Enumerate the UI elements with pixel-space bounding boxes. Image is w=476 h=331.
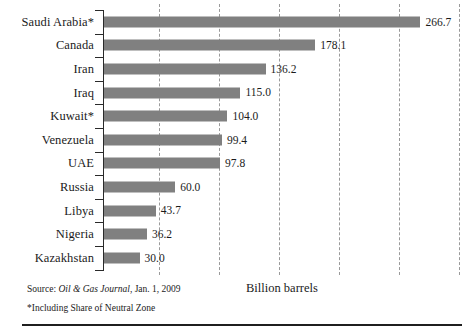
bar-row: Russia60.0 — [0, 175, 476, 199]
bar-container: 36.2 — [104, 229, 172, 240]
source-line: Source: Oil & Gas Journal, Jan. 1, 2009 — [27, 284, 181, 294]
axis-tick — [95, 270, 104, 271]
category-label: Iran — [73, 61, 94, 76]
bar — [104, 158, 220, 169]
bar — [104, 87, 240, 98]
bottom-rule-divider — [22, 324, 462, 326]
bar — [104, 181, 175, 192]
category-label: Saudi Arabia* — [22, 14, 94, 29]
category-label: Nigeria — [56, 227, 94, 242]
bar-row: Iraq115.0 — [0, 81, 476, 105]
bar-row: Kuwait*104.0 — [0, 104, 476, 128]
bar-value-label: 30.0 — [145, 252, 165, 264]
bar-container: 97.8 — [104, 158, 245, 169]
bar-row: UAE97.8 — [0, 152, 476, 176]
footnote-line: *Including Share of Neutral Zone — [27, 303, 155, 313]
bar-container: 43.7 — [104, 205, 181, 216]
bar-chart: Saudi Arabia*266.7Canada178.1Iran136.2Ir… — [0, 0, 476, 275]
category-label: Kuwait* — [50, 109, 94, 124]
bar — [104, 63, 266, 74]
bar-row: Venezuela99.4 — [0, 128, 476, 152]
bar-row: Iran136.2 — [0, 57, 476, 81]
bar-value-label: 136.2 — [271, 63, 297, 75]
category-label: Venezuela — [42, 132, 94, 147]
source-publication: Oil & Gas Journal — [58, 284, 130, 294]
category-label: UAE — [68, 156, 94, 171]
bar-row: Kazakhstan30.0 — [0, 246, 476, 270]
bar-container: 266.7 — [104, 16, 451, 27]
bar-row: Nigeria36.2 — [0, 222, 476, 246]
bar-value-label: 115.0 — [245, 87, 270, 99]
bar-container: 60.0 — [104, 181, 200, 192]
bar-value-label: 36.2 — [152, 228, 172, 240]
source-suffix: , Jan. 1, 2009 — [130, 284, 181, 294]
bar-value-label: 60.0 — [180, 181, 200, 193]
category-label: Libya — [64, 203, 94, 218]
bar-value-label: 97.8 — [225, 158, 245, 170]
bar-value-label: 266.7 — [425, 16, 451, 28]
bar-container: 104.0 — [104, 111, 258, 122]
bar-row: Saudi Arabia*266.7 — [0, 10, 476, 34]
source-prefix: Source: — [27, 284, 58, 294]
bar-container: 115.0 — [104, 87, 271, 98]
category-label: Iraq — [73, 85, 94, 100]
bar-value-label: 104.0 — [232, 110, 258, 122]
bar — [104, 16, 420, 27]
bar-container: 178.1 — [104, 40, 346, 51]
bar — [104, 40, 315, 51]
bar-container: 136.2 — [104, 63, 296, 74]
category-label: Kazakhstan — [35, 250, 94, 265]
bar — [104, 205, 156, 216]
bar — [104, 229, 147, 240]
bar — [104, 111, 227, 122]
axis-title: Billion barrels — [246, 281, 318, 296]
bar — [104, 134, 222, 145]
bar — [104, 252, 140, 263]
bar-value-label: 43.7 — [161, 205, 181, 217]
bar-container: 99.4 — [104, 134, 247, 145]
category-label: Canada — [56, 38, 94, 53]
bar-value-label: 178.1 — [320, 40, 346, 52]
bar-row: Libya43.7 — [0, 199, 476, 223]
bar-row: Canada178.1 — [0, 34, 476, 58]
bar-value-label: 99.4 — [227, 134, 247, 146]
bar-container: 30.0 — [104, 252, 165, 263]
category-label: Russia — [60, 179, 94, 194]
chart-page: Saudi Arabia*266.7Canada178.1Iran136.2Ir… — [0, 0, 476, 331]
